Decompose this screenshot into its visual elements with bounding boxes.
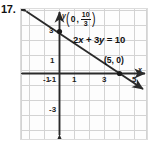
x-axis-label: x	[138, 66, 142, 73]
ytick-label-neg3: -3	[49, 106, 56, 114]
xtick-label-3: 3	[102, 76, 106, 84]
equation-var-y: y	[99, 34, 104, 45]
point-comma: ,	[76, 14, 78, 24]
xtick-label-5: 5	[132, 76, 136, 84]
paren-close: )	[92, 12, 96, 26]
ytick-label-1: 1	[50, 57, 54, 65]
equation-var-x: x	[78, 34, 83, 45]
point-x-intercept	[117, 71, 122, 76]
problem-number: 17.	[1, 3, 15, 15]
point-y-intercept	[57, 29, 62, 34]
fraction-denominator: 3	[83, 20, 89, 27]
ytick-label-neg1: -1	[49, 76, 56, 84]
point-label-x-intercept: (5, 0)	[104, 56, 124, 65]
equation-label: 2x + 3y = 10	[73, 35, 125, 45]
fraction-ten-thirds: 10 3	[81, 11, 91, 27]
coordinate-plane: -1 1 3 5 3 1 -1 -3 y x 2x + 3y = 10 (5, …	[20, 8, 148, 140]
equation-constant: 10	[115, 34, 125, 45]
ytick-label-3: 3	[49, 27, 53, 35]
axes-and-graph	[21, 9, 147, 139]
point-x-value: 0	[71, 14, 76, 24]
figure-container: 17.	[0, 0, 149, 141]
paren-open: (	[66, 12, 70, 26]
fraction-numerator: 10	[81, 11, 91, 18]
point-label-y-intercept: ( 0 , 10 3 )	[65, 11, 96, 27]
equation-equals: =	[107, 34, 112, 45]
equation-plus: +	[86, 34, 91, 45]
xtick-label-1: 1	[72, 76, 76, 84]
